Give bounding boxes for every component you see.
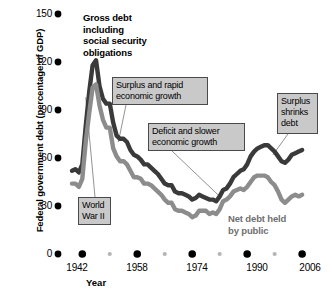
y-tick-label-120: 120 (26, 56, 52, 67)
x-minor-tick-dot (163, 252, 167, 256)
x-tick-dot (79, 250, 87, 258)
x-minor-tick-dot (273, 252, 277, 256)
y-tick-label-30: 30 (26, 200, 52, 211)
y-axis-title: Federal government debt (percentage of G… (34, 6, 45, 256)
x-tick-dot (133, 250, 141, 258)
x-tick-label-1958: 1958 (117, 262, 157, 273)
x-minor-tick-dot (108, 252, 112, 256)
y-tick-dot (55, 155, 62, 162)
y-tick-dot (55, 203, 62, 210)
x-tick-label-2006: 2006 (290, 262, 330, 273)
x-tick-dot (243, 250, 251, 258)
y-tick-label-150: 150 (26, 8, 52, 19)
y-tick-dot (55, 11, 62, 18)
annotation-surplus-shrinks-debt: Surplus shrinks debt (277, 93, 318, 134)
x-axis-title: Year (86, 277, 106, 288)
leader-deficit-slower (172, 151, 220, 196)
annotation-surplus-and-rapid-growth: Surplus and rapid economic growth (112, 77, 208, 105)
x-tick-label-1942: 1942 (57, 262, 97, 273)
annotation-world-war-ii: World War II (78, 197, 111, 225)
y-tick-label-90: 90 (26, 104, 52, 115)
y-tick-label-0: 0 (26, 248, 52, 259)
y-tick-dot (55, 59, 62, 66)
x-minor-tick-dot (218, 252, 222, 256)
chart-figure: Federal government debt (percentage of G… (0, 0, 332, 302)
annotation-deficit-and-slower-growth: Deficit and slower economic growth (148, 123, 245, 151)
series-label-gross-debt: Gross debt including social security obl… (83, 12, 147, 58)
x-tick-label-1974: 1974 (177, 262, 217, 273)
y-tick-label-60: 60 (26, 152, 52, 163)
x-tick-label-1990: 1990 (237, 262, 277, 273)
y-tick-dot (55, 107, 62, 114)
series-label-net-debt: Net debt held by public (228, 213, 286, 236)
x-tick-dot (188, 250, 196, 258)
y-tick-dot (55, 251, 62, 258)
x-tick-dot (298, 250, 306, 258)
